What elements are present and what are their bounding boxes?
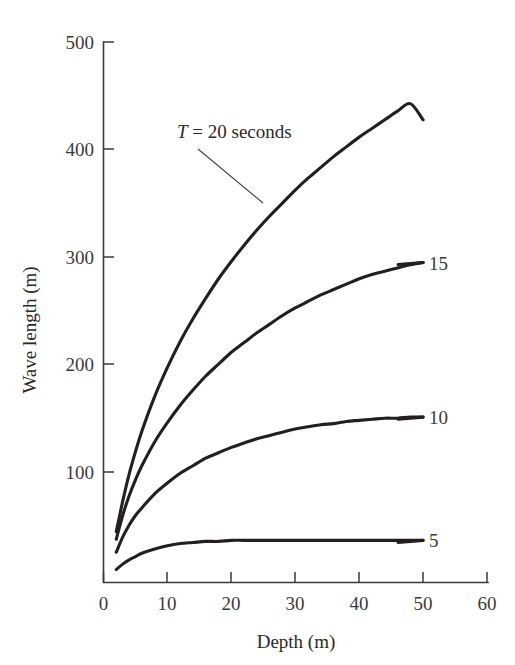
x-tick-label-40: 40 (350, 593, 369, 614)
y-axis-tick-labels: 500 400 300 200 100 (66, 32, 95, 483)
period-callout-text: T = 20 seconds (177, 121, 292, 142)
y-tick-label-200: 200 (66, 354, 95, 375)
x-tick-label-20: 20 (222, 593, 241, 614)
x-tick-label-0: 0 (99, 593, 109, 614)
curve-T10 (116, 417, 423, 552)
y-tick-label-400: 400 (66, 139, 95, 160)
series-stub-15 (398, 263, 423, 265)
y-tick-label-500: 500 (66, 32, 95, 53)
curve-T15 (116, 263, 423, 540)
wave-length-vs-depth-figure: 500 400 300 200 100 0 10 20 30 40 50 60 (0, 0, 515, 665)
series-label-10: 10 (429, 407, 448, 428)
y-tick-label-100: 100 (66, 462, 95, 483)
axis-lines (104, 42, 489, 583)
y-tick-label-300: 300 (66, 247, 95, 268)
axes-group (104, 42, 489, 583)
x-tick-label-50: 50 (414, 593, 433, 614)
x-axis-ticks (104, 572, 488, 583)
series-label-5: 5 (429, 530, 439, 551)
x-axis-tick-labels: 0 10 20 30 40 50 60 (99, 593, 497, 614)
x-tick-label-60: 60 (478, 593, 497, 614)
curve-T20 (116, 103, 423, 531)
curve-T5 (116, 540, 423, 569)
chart-canvas: 500 400 300 200 100 0 10 20 30 40 50 60 (0, 0, 515, 665)
callout-leader-line (198, 149, 263, 203)
x-tick-label-30: 30 (286, 593, 305, 614)
series-label-15: 15 (429, 253, 448, 274)
period-callout-annotation: T = 20 seconds (177, 121, 292, 203)
y-axis-title: Wave length (m) (19, 266, 41, 393)
data-curves-group (116, 103, 423, 569)
y-axis-ticks (104, 42, 115, 472)
series-stub-5 (398, 540, 423, 542)
series-end-labels: 15 10 5 (398, 253, 448, 552)
series-stub-10 (398, 417, 423, 419)
x-tick-label-10: 10 (158, 593, 177, 614)
x-axis-title: Depth (m) (257, 631, 336, 653)
period-callout-rest: = 20 seconds (188, 121, 292, 142)
